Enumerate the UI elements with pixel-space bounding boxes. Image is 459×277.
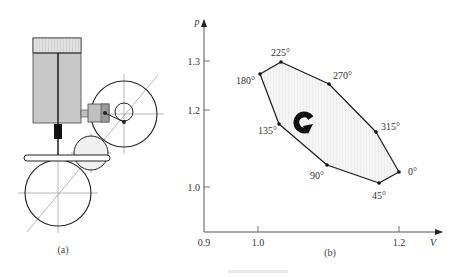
cycle-vertex	[277, 122, 281, 126]
wrist-pin	[103, 111, 107, 115]
cycle-vertex	[327, 82, 331, 86]
cycle-vertex	[397, 170, 401, 174]
cycle-vertex	[325, 163, 329, 167]
rod-block	[54, 124, 62, 139]
x-axis-label: V	[430, 237, 438, 248]
x-tick-label: 1.2	[393, 237, 406, 248]
angle-label: 45°	[372, 190, 386, 201]
cycle-area	[260, 62, 399, 183]
y-tick-label: 1.0	[188, 182, 201, 193]
crank-pin	[122, 120, 126, 124]
angle-label: 315°	[381, 121, 400, 132]
cycle-vertex	[374, 130, 378, 134]
pv-diagram: 0°45°90°135°180°225°270°315° 1.31.21.0 0…	[188, 16, 443, 259]
angle-label: 270°	[333, 70, 352, 81]
panel-a-caption: (a)	[57, 244, 68, 256]
panel-b-caption: (b)	[324, 247, 336, 259]
y-axis-ticks: 1.31.21.0	[188, 56, 211, 193]
figure-caption-faint	[228, 270, 288, 273]
cycle-vertex	[279, 60, 283, 64]
angle-label: 225°	[271, 47, 290, 58]
idler-gear	[74, 136, 108, 170]
y-tick-label: 1.3	[188, 56, 201, 67]
angle-label: 135°	[258, 125, 277, 136]
angle-label: 0°	[408, 166, 417, 177]
y-axis-label: p	[194, 16, 200, 27]
angle-label: 90°	[310, 170, 324, 181]
x-tick-label: 1.0	[252, 237, 265, 248]
cycle-vertex	[377, 181, 381, 185]
engine-mechanism-diagram: (a)	[18, 38, 164, 256]
x-tick-label: 0.9	[198, 237, 211, 248]
x-axis-ticks: 0.91.01.2	[198, 226, 406, 248]
cycle-vertex	[258, 72, 262, 76]
y-tick-label: 1.2	[188, 105, 201, 116]
slider-bar	[24, 155, 110, 161]
angle-label: 180°	[236, 75, 255, 86]
figure-canvas: (a) 0°45°90°135°180°225°270°315° 1.31.21…	[0, 0, 459, 277]
cylinder-head-hatched	[33, 38, 81, 53]
